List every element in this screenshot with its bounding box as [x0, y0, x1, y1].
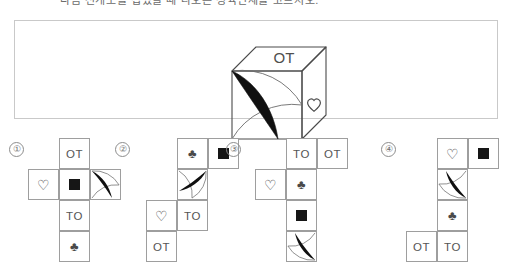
- black-square-icon: [69, 179, 80, 190]
- option-3-cell-heart: ♡: [255, 169, 286, 200]
- option-1-cell-to: TO: [59, 200, 90, 231]
- cell-text: OT: [413, 241, 430, 253]
- option-3-cell-ot: OT: [317, 138, 348, 169]
- black-square-icon: [478, 148, 489, 159]
- option-3-cell-square: [286, 200, 317, 231]
- option-2-cell-heart: ♡: [146, 200, 177, 231]
- heart-icon: ♡: [264, 178, 278, 192]
- club-icon: ♣: [448, 209, 457, 222]
- option-2-cell-club: ♣: [177, 138, 208, 169]
- cell-text: TO: [66, 210, 83, 222]
- cube-figure: OT: [208, 43, 348, 141]
- option-4-marker: ④: [381, 142, 396, 157]
- black-crescent-icon: [287, 231, 316, 262]
- option-2-cell-to: TO: [177, 200, 208, 231]
- option-2-marker: ②: [115, 142, 130, 157]
- black-crescent-icon: [438, 169, 467, 200]
- option-1-cell-crescent: [90, 169, 121, 200]
- cell-text: OT: [66, 148, 83, 160]
- option-1-cell-ot: OT: [59, 138, 90, 169]
- club-icon: ♣: [297, 178, 306, 191]
- option-4-cell-heart: ♡: [437, 138, 468, 169]
- cell-text: TO: [184, 210, 201, 222]
- black-crescent-icon: [177, 170, 208, 199]
- club-icon: ♣: [188, 147, 197, 160]
- option-3-marker: ③: [226, 142, 241, 157]
- question-figure-panel: OT: [14, 20, 498, 119]
- option-2-cell-crescent: [177, 169, 208, 200]
- option-4-cell-ot: OT: [406, 231, 437, 262]
- option-4-cell-club: ♣: [437, 200, 468, 231]
- heart-icon: ♡: [446, 147, 460, 161]
- option-4-cell-to: TO: [437, 231, 468, 262]
- option-1-cell-square: [59, 169, 90, 200]
- cell-text: OT: [153, 241, 170, 253]
- black-crescent-icon: [91, 169, 120, 200]
- cube-top-label: OT: [274, 49, 295, 66]
- cell-text: OT: [324, 148, 341, 160]
- heart-icon: ♡: [37, 178, 51, 192]
- option-4-cell-crescent: [437, 169, 468, 200]
- club-icon: ♣: [70, 240, 79, 253]
- cell-text: TO: [293, 148, 310, 160]
- option-1-cell-heart: ♡: [28, 169, 59, 200]
- cube-svg: OT: [208, 43, 348, 141]
- option-4-cell-square: [468, 138, 499, 169]
- cell-text: TO: [444, 241, 461, 253]
- option-1-cell-club: ♣: [59, 231, 90, 262]
- option-1-marker: ①: [9, 142, 24, 157]
- option-3-cell-crescent: [286, 231, 317, 262]
- cube-right-face: [302, 47, 326, 139]
- heart-icon: ♡: [155, 209, 169, 223]
- option-3-cell-club: ♣: [286, 169, 317, 200]
- option-2-cell-ot: OT: [146, 231, 177, 262]
- cube-right-heart-icon: [308, 99, 321, 111]
- black-square-icon: [296, 210, 307, 221]
- question-prompt-text: 다음 전개도를 접었을 때 나오는 정육면체를 고르시오.: [60, 0, 460, 5]
- option-3-cell-to: TO: [286, 138, 317, 169]
